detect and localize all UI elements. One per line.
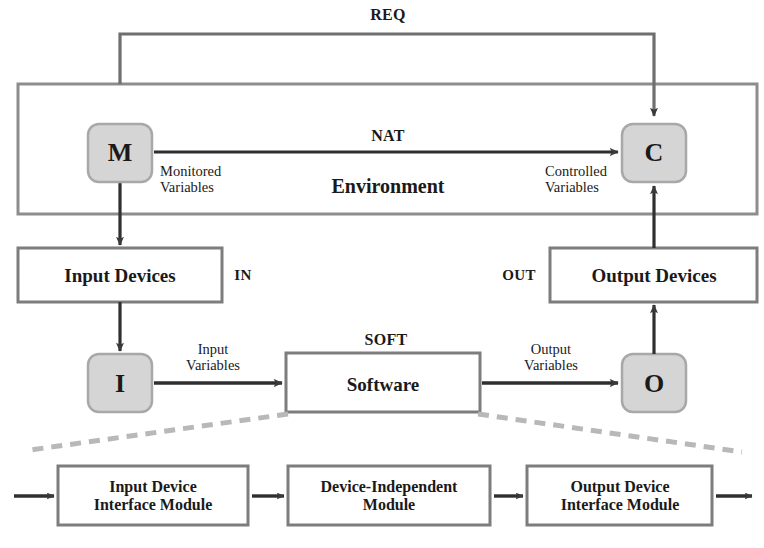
req-relation-path xyxy=(120,34,654,116)
input-variables-node-label: I xyxy=(115,370,125,397)
output-device-interface-module-label: Output Device Interface Module xyxy=(561,478,680,515)
input-devices-label: Input Devices xyxy=(64,266,175,286)
module-2-line1: Device-Independent xyxy=(321,478,458,496)
out-relation-label: OUT xyxy=(502,268,535,284)
controlled-variables-node-label: C xyxy=(645,139,664,166)
module-2-line2: Module xyxy=(321,496,458,514)
monitored-variables-node-label: M xyxy=(108,139,133,166)
environment-label: Environment xyxy=(332,176,445,197)
output-variables-line1: Output xyxy=(524,341,578,357)
software-label: Software xyxy=(347,375,419,395)
module-3-line1: Output Device xyxy=(561,478,680,496)
input-variables-line1: Input xyxy=(186,341,240,357)
input-variables-label: Input Variables xyxy=(186,341,240,373)
monitored-variables-line2: Variables xyxy=(160,179,221,195)
soft-relation-label: SOFT xyxy=(365,332,408,349)
output-variables-node-label: O xyxy=(644,370,664,397)
expansion-dashed-line-right xyxy=(478,414,742,452)
four-variable-model-diagram: REQ NAT M C Monitored Variables Controll… xyxy=(0,0,764,548)
module-1-line2: Interface Module xyxy=(94,496,213,514)
controlled-variables-line1: Controlled xyxy=(545,163,607,179)
controlled-variables-label: Controlled Variables xyxy=(545,163,607,195)
expansion-dashed-line-left xyxy=(30,414,288,450)
req-label: REQ xyxy=(370,7,406,24)
module-1-line1: Input Device xyxy=(94,478,213,496)
device-independent-module-label: Device-Independent Module xyxy=(321,478,458,515)
module-3-line2: Interface Module xyxy=(561,496,680,514)
input-variables-line2: Variables xyxy=(186,357,240,373)
controlled-variables-line2: Variables xyxy=(545,179,607,195)
output-variables-line2: Variables xyxy=(524,357,578,373)
output-variables-label: Output Variables xyxy=(524,341,578,373)
monitored-variables-label: Monitored Variables xyxy=(160,163,221,195)
in-relation-label: IN xyxy=(234,268,251,284)
monitored-variables-line1: Monitored xyxy=(160,163,221,179)
nat-label: NAT xyxy=(371,128,405,145)
output-devices-label: Output Devices xyxy=(591,266,716,286)
input-device-interface-module-label: Input Device Interface Module xyxy=(94,478,213,515)
